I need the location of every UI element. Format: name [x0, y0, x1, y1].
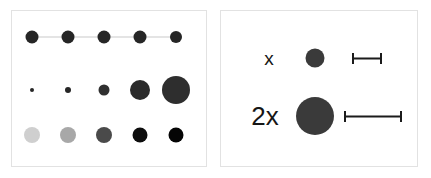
circle-mark	[98, 31, 111, 44]
circle-mark	[130, 80, 150, 100]
magnitude-label: 2x	[251, 103, 278, 129]
circle-mark	[24, 127, 40, 143]
circle-mark	[96, 127, 112, 143]
magnitude-label: x	[264, 49, 274, 68]
bar-stem	[354, 57, 380, 59]
legend-length-bar	[352, 53, 382, 64]
circle-mark	[62, 31, 75, 44]
circle-mark	[26, 31, 39, 44]
circle-mark	[60, 127, 76, 143]
left-panel-plot-area	[12, 11, 206, 166]
bar-end-cap-right	[380, 53, 382, 64]
circle-mark	[30, 88, 34, 92]
bar-end-cap-right	[400, 111, 402, 122]
legend-circle-swatch	[296, 97, 334, 135]
circle-mark	[170, 31, 182, 43]
circle-mark	[169, 128, 184, 143]
figure-canvas: x2x	[0, 0, 431, 178]
legend-length-bar	[344, 111, 402, 122]
circle-mark	[134, 31, 147, 44]
right-panel: x2x	[220, 10, 418, 167]
left-panel	[11, 10, 207, 167]
bar-stem	[346, 115, 400, 117]
right-panel-legend-area: x2x	[221, 11, 417, 166]
circle-mark	[162, 76, 190, 104]
legend-circle-swatch	[306, 49, 325, 68]
circle-mark	[99, 85, 110, 96]
circle-mark	[65, 87, 71, 93]
circle-mark	[133, 128, 148, 143]
